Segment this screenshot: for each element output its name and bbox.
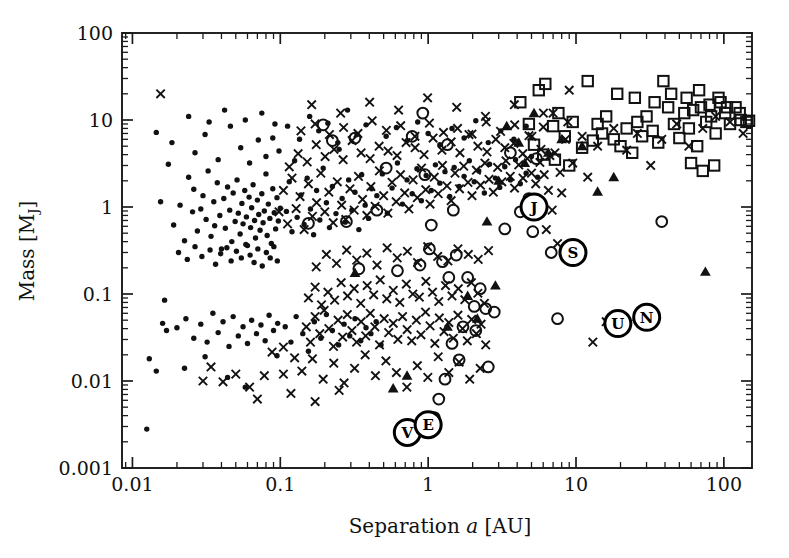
- data-point: [546, 247, 557, 258]
- data-point: [319, 375, 327, 383]
- data-point: [307, 100, 315, 108]
- data-point: [262, 208, 267, 213]
- data-point: [473, 118, 478, 123]
- planet-marker-neptune: N: [634, 304, 660, 330]
- data-point: [229, 239, 234, 244]
- data-point: [302, 323, 310, 331]
- planet-marker-jupiter: J: [521, 194, 547, 220]
- data-point: [608, 172, 619, 181]
- data-point: [358, 195, 366, 203]
- data-point: [374, 193, 379, 198]
- data-point: [438, 161, 446, 169]
- y-tick-label: 0.001: [59, 457, 113, 479]
- planet-label: J: [528, 199, 537, 217]
- data-point: [383, 244, 391, 252]
- data-point: [312, 263, 320, 271]
- data-point: [366, 154, 374, 162]
- data-point: [663, 102, 673, 112]
- data-point: [583, 76, 593, 86]
- data-point: [350, 267, 361, 276]
- data-point: [403, 325, 411, 333]
- data-point: [253, 235, 258, 240]
- data-point: [396, 298, 404, 306]
- data-point: [342, 246, 350, 254]
- data-point: [368, 117, 376, 125]
- data-point: [185, 257, 190, 262]
- data-point: [647, 126, 657, 136]
- data-point: [384, 147, 392, 155]
- data-point: [171, 222, 176, 227]
- data-point: [279, 370, 287, 378]
- data-point: [243, 242, 248, 247]
- data-point: [403, 247, 411, 255]
- data-point: [182, 366, 187, 371]
- data-point: [421, 308, 429, 316]
- data-point: [610, 124, 618, 132]
- data-point: [433, 162, 438, 167]
- data-point: [300, 331, 305, 336]
- data-point: [519, 174, 527, 182]
- data-point: [217, 213, 222, 218]
- data-point: [439, 128, 447, 136]
- data-point: [366, 309, 374, 317]
- data-point: [400, 189, 408, 197]
- data-point: [186, 175, 191, 180]
- data-point: [658, 76, 668, 86]
- data-point: [540, 79, 550, 89]
- data-point: [304, 294, 312, 302]
- data-point: [257, 228, 262, 233]
- data-point: [548, 121, 558, 131]
- data-point: [393, 151, 401, 159]
- data-point: [371, 372, 379, 380]
- data-point: [240, 221, 245, 226]
- data-point: [204, 339, 209, 344]
- data-point: [285, 123, 290, 128]
- data-point: [263, 171, 268, 176]
- data-point: [388, 383, 399, 392]
- data-point: [396, 171, 404, 179]
- data-point: [404, 177, 409, 182]
- data-point: [485, 175, 493, 183]
- data-point: [405, 205, 413, 213]
- data-point: [228, 258, 233, 263]
- data-point: [249, 317, 254, 322]
- data-point: [332, 259, 340, 267]
- y-axis-title: Mass [MJ]: [15, 201, 41, 302]
- data-point: [311, 232, 316, 237]
- data-point: [156, 90, 164, 98]
- data-point: [314, 188, 319, 193]
- data-point: [529, 108, 540, 117]
- data-point: [250, 182, 255, 187]
- data-point: [337, 278, 345, 286]
- data-point: [380, 315, 388, 323]
- x-tick-label: 100: [706, 473, 742, 495]
- data-point: [463, 337, 471, 345]
- data-point: [255, 197, 260, 202]
- data-point: [290, 354, 298, 362]
- data-point: [275, 258, 280, 263]
- data-point: [244, 214, 249, 219]
- data-point: [483, 362, 494, 373]
- data-point: [256, 137, 261, 142]
- data-point: [312, 141, 320, 149]
- data-point: [499, 224, 510, 235]
- data-point: [423, 94, 431, 102]
- data-point: [325, 188, 333, 196]
- data-point: [539, 109, 547, 117]
- data-point: [375, 142, 383, 150]
- data-point: [649, 97, 659, 107]
- data-point: [191, 336, 196, 341]
- data-point: [469, 301, 480, 312]
- data-point: [312, 199, 320, 207]
- data-point: [489, 188, 497, 196]
- data-point: [245, 341, 250, 346]
- data-point: [219, 378, 227, 386]
- data-point: [162, 297, 167, 302]
- data-point: [158, 199, 163, 204]
- data-point: [268, 255, 273, 260]
- data-point: [363, 281, 371, 289]
- data-point: [357, 299, 365, 307]
- data-point: [483, 148, 491, 156]
- data-point: [462, 272, 473, 283]
- data-point: [486, 140, 491, 145]
